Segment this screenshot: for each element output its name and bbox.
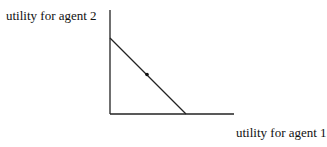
frontier-point bbox=[145, 73, 149, 77]
utility-frontier-line bbox=[110, 38, 186, 114]
